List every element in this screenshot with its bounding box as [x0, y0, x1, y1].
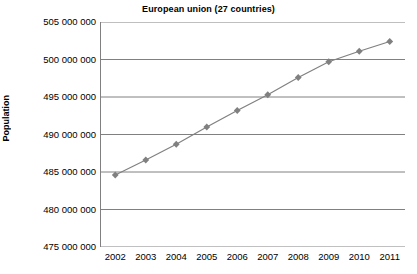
x-axis-tick-label: 2009	[318, 251, 339, 262]
x-axis-tick-label: 2002	[105, 251, 126, 262]
plot-area	[100, 22, 405, 247]
data-point-marker	[386, 38, 393, 45]
y-axis-tick-label: 480 000 000	[22, 205, 96, 215]
data-point-marker	[173, 141, 180, 148]
y-axis-tick-label: 485 000 000	[22, 167, 96, 177]
data-point-marker	[234, 107, 241, 114]
y-axis-tick-label: 490 000 000	[22, 130, 96, 140]
data-series-line	[115, 42, 390, 176]
data-point-marker	[142, 157, 149, 164]
data-point-marker	[203, 124, 210, 131]
data-point-marker	[356, 48, 363, 55]
y-axis-tick-label: 505 000 000	[22, 17, 96, 27]
x-axis-tick-label: 2005	[196, 251, 217, 262]
x-axis-tick-labels: 2002200320042005200620072008200920102011	[100, 251, 405, 267]
data-point-marker	[295, 74, 302, 81]
y-axis-tick-labels: 505 000 000500 000 000495 000 000490 000…	[22, 0, 96, 274]
x-axis-tick-label: 2008	[288, 251, 309, 262]
data-point-marker	[112, 172, 119, 179]
y-axis-tick-label: 475 000 000	[22, 242, 96, 252]
x-axis-tick-label: 2006	[227, 251, 248, 262]
x-axis-tick-label: 2004	[166, 251, 187, 262]
line-chart-svg	[100, 22, 405, 247]
x-axis-tick-label: 2010	[349, 251, 370, 262]
x-axis-tick-label: 2007	[257, 251, 278, 262]
gridlines	[100, 22, 405, 247]
y-axis-title: Population	[1, 95, 17, 142]
chart-container: European union (27 countries) Population…	[0, 0, 417, 274]
x-axis-tick-label: 2003	[135, 251, 156, 262]
y-axis-tick-label: 500 000 000	[22, 55, 96, 65]
y-axis-tick-label: 495 000 000	[22, 92, 96, 102]
x-axis-tick-label: 2011	[380, 251, 400, 262]
